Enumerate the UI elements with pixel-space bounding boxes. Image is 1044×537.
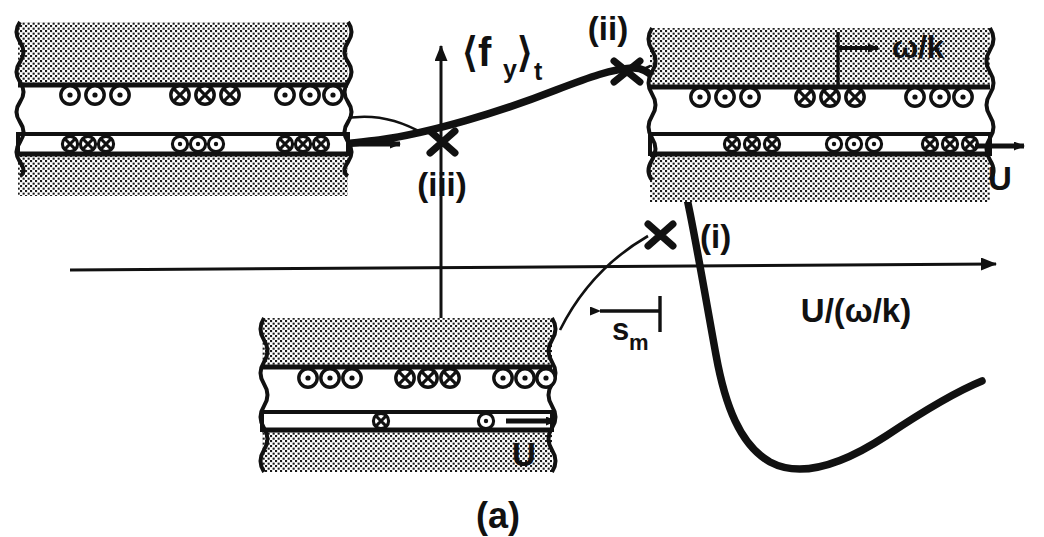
inset-case-iii (17, 22, 401, 196)
inset2-wave-speed-label: ω/k (892, 30, 945, 65)
y-axis-label-close: ⟩ (517, 30, 533, 74)
y-axis-label-subscript: y (503, 55, 517, 83)
figure-root: ⟨f y ⟩ t U/(ω/k) (iii) (ii) (i) s m (0, 0, 1044, 537)
marker-label-ii: (ii) (588, 10, 628, 47)
inset3-lower-wall (18, 154, 348, 196)
figure-caption: (a) (476, 495, 520, 536)
y-axis-label-subscript-2: t (534, 57, 543, 85)
figure-canvas: ⟨f y ⟩ t U/(ω/k) (iii) (ii) (i) s m (0, 0, 1044, 537)
inset1-upper-symbols (299, 369, 555, 387)
inset1-upper-wall (262, 318, 552, 366)
slip-label: s (612, 312, 629, 347)
x-axis-label: U/(ω/k) (801, 292, 911, 329)
inset3-upper-wall (18, 22, 348, 84)
inset2-lower-wall (650, 154, 990, 202)
inset1-velocity-label: U (512, 436, 536, 473)
inset2-velocity-label: U (988, 160, 1012, 197)
marker-label-i: (i) (700, 218, 731, 255)
inset-case-ii: ω/k U (649, 28, 1025, 202)
y-axis-label-open: ⟨f (462, 30, 492, 74)
inset-case-i: U (261, 318, 557, 473)
marker-label-iii: (iii) (417, 166, 466, 203)
inset1-lower-wall (262, 430, 552, 472)
slip-label-subscript: m (629, 330, 649, 355)
inset3-lower-symbols (62, 136, 328, 151)
